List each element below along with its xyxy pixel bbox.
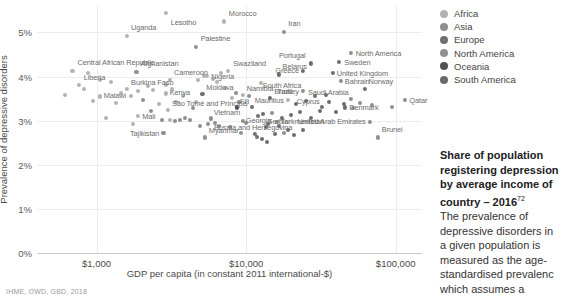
data-point[interactable]	[131, 122, 135, 126]
data-point[interactable]	[234, 91, 238, 95]
data-point-label: Swaziland	[233, 58, 266, 67]
data-point[interactable]	[63, 93, 67, 97]
data-point[interactable]	[98, 94, 102, 98]
data-point[interactable]	[309, 61, 313, 65]
legend-item-oceania[interactable]: Oceania	[440, 60, 576, 73]
data-point[interactable]	[203, 135, 207, 139]
legend-swatch-icon	[440, 76, 448, 84]
data-point[interactable]	[164, 91, 168, 95]
data-point[interactable]	[70, 69, 74, 73]
data-point[interactable]	[129, 94, 133, 98]
data-point-label: Malawi	[104, 91, 126, 100]
data-point[interactable]	[194, 44, 198, 48]
y-gridline	[37, 253, 422, 254]
y-axis-tick-2: 2%	[18, 159, 32, 170]
data-point[interactable]	[134, 70, 138, 74]
data-point[interactable]	[301, 128, 305, 132]
data-point[interactable]	[343, 105, 347, 109]
legend-swatch-icon	[440, 10, 448, 18]
data-point[interactable]	[239, 131, 243, 135]
data-point[interactable]	[349, 51, 353, 55]
data-point[interactable]	[255, 135, 259, 139]
data-point[interactable]	[363, 87, 367, 91]
side-body-line-6: which assumes a	[440, 283, 524, 295]
footnote-marker: 72	[517, 195, 525, 202]
data-point[interactable]	[136, 114, 140, 118]
data-point[interactable]	[168, 118, 172, 122]
data-point[interactable]	[196, 78, 200, 82]
legend-item-south-america[interactable]: South America	[440, 73, 576, 86]
legend-label: Europe	[454, 34, 485, 45]
data-point[interactable]	[141, 98, 145, 102]
data-point[interactable]	[349, 97, 353, 101]
data-point-label: Bosnia and Herzegovina	[214, 122, 292, 131]
data-point[interactable]	[301, 89, 305, 93]
data-point[interactable]	[104, 116, 108, 120]
y-gridline	[37, 165, 422, 166]
data-point-label: Burkina Faso	[131, 77, 173, 86]
data-point[interactable]	[368, 119, 372, 123]
legend-swatch-icon	[440, 49, 448, 57]
data-point[interactable]	[286, 97, 290, 101]
x-axis-label: GDP per capita (in constant 2011 interna…	[37, 268, 422, 279]
data-point[interactable]	[164, 11, 168, 15]
data-point[interactable]	[298, 110, 302, 114]
legend-item-africa[interactable]: Africa	[440, 7, 576, 20]
data-point[interactable]	[265, 140, 269, 144]
data-point[interactable]	[161, 131, 165, 135]
legend-item-asia[interactable]: Asia	[440, 20, 576, 33]
data-point[interactable]	[318, 109, 322, 113]
data-point[interactable]	[77, 82, 81, 86]
data-point[interactable]	[188, 118, 192, 122]
data-point[interactable]	[403, 97, 407, 101]
data-point[interactable]	[157, 102, 161, 106]
data-point-label: Cyprus	[297, 96, 320, 105]
data-point[interactable]	[160, 118, 164, 122]
data-point[interactable]	[320, 104, 324, 108]
data-point[interactable]	[327, 100, 331, 104]
side-body: The prevalence of depressive disorders i…	[440, 209, 576, 297]
data-point[interactable]	[82, 87, 86, 91]
data-point[interactable]	[301, 69, 305, 73]
data-point[interactable]	[178, 118, 182, 122]
legend-item-europe[interactable]: Europe	[440, 33, 576, 46]
data-point[interactable]	[331, 71, 335, 75]
y-axis-tick-5: 5%	[18, 27, 32, 38]
data-point[interactable]	[151, 88, 155, 92]
data-point[interactable]	[270, 111, 274, 115]
data-point[interactable]	[376, 135, 380, 139]
data-point[interactable]	[339, 79, 343, 83]
data-point-label: Greece	[275, 66, 299, 75]
data-point[interactable]	[337, 60, 341, 64]
data-point-label: Fiji	[240, 97, 249, 106]
data-point[interactable]	[260, 137, 264, 141]
data-point-label: Saudi Arabia	[308, 87, 349, 96]
data-point[interactable]	[222, 19, 226, 23]
data-point[interactable]	[91, 99, 95, 103]
data-point[interactable]	[183, 116, 187, 120]
data-point[interactable]	[250, 105, 254, 109]
legend-swatch-icon	[440, 62, 448, 70]
side-body-line-4: measured as the age-	[440, 254, 547, 266]
data-point-label: United Arab Emirates	[298, 116, 366, 125]
legend-label: Oceania	[454, 61, 489, 72]
legend-item-north-america[interactable]: North America	[440, 47, 576, 60]
data-point[interactable]	[292, 133, 296, 137]
data-point-label: Norway	[369, 76, 393, 85]
side-heading-line-3: by average income of	[440, 178, 553, 190]
data-point[interactable]	[334, 110, 338, 114]
data-point[interactable]	[109, 80, 113, 84]
data-point[interactable]	[114, 101, 118, 105]
data-point[interactable]	[200, 92, 204, 96]
data-point[interactable]	[273, 132, 277, 136]
data-point[interactable]	[198, 124, 202, 128]
data-point[interactable]	[173, 119, 177, 123]
data-point[interactable]	[125, 34, 129, 38]
legend-swatch-icon	[440, 36, 448, 44]
side-heading-line-4: country – 2016	[440, 195, 517, 207]
data-point[interactable]	[166, 108, 170, 112]
data-point[interactable]	[136, 89, 140, 93]
data-point[interactable]	[390, 105, 394, 109]
data-point[interactable]	[282, 131, 286, 135]
data-point-label: Cameroon	[174, 68, 208, 77]
